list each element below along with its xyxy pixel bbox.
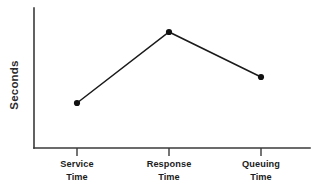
x-axis-label-response-time-line2: Time	[158, 172, 180, 182]
line-chart-canvas: Seconds Service Time Response Time Queui…	[0, 0, 320, 196]
chart-figure: Seconds Service Time Response Time Queui…	[0, 0, 320, 196]
x-axis-label-response-time-line1: Response	[147, 159, 192, 169]
y-axis-label: Seconds	[8, 60, 20, 109]
x-axis-label-service-time-line2: Time	[66, 172, 88, 182]
x-axis-label-queuing-time-line2: Time	[250, 172, 272, 182]
x-axis-label-queuing-time-line1: Queuing	[242, 159, 280, 169]
data-point-queuing-time	[258, 74, 264, 80]
data-point-response-time	[166, 29, 172, 35]
x-axis-label-service-time-line1: Service	[60, 159, 93, 169]
data-point-service-time	[74, 100, 80, 106]
